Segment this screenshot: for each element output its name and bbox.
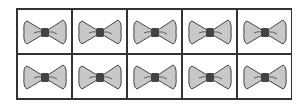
- bow-tie-icon: [132, 63, 178, 91]
- frame-cell: [17, 9, 72, 54]
- bow-tie-icon: [187, 18, 233, 46]
- bow-tie-icon: [77, 18, 123, 46]
- frame-cell: [237, 54, 292, 99]
- bow-tie-icon: [242, 63, 288, 91]
- frame-cell: [127, 9, 182, 54]
- bow-tie-icon: [242, 18, 288, 46]
- frame-cell: [72, 54, 127, 99]
- bow-tie-icon: [187, 63, 233, 91]
- frame-cell: [237, 9, 292, 54]
- frame-cell: [182, 54, 237, 99]
- bow-tie-icon: [77, 63, 123, 91]
- ten-frame: [16, 8, 292, 100]
- bow-tie-icon: [22, 63, 68, 91]
- frame-cell: [127, 54, 182, 99]
- bow-tie-icon: [132, 18, 178, 46]
- frame-cell: [182, 9, 237, 54]
- bow-tie-icon: [22, 18, 68, 46]
- frame-cell: [72, 9, 127, 54]
- frame-cell: [17, 54, 72, 99]
